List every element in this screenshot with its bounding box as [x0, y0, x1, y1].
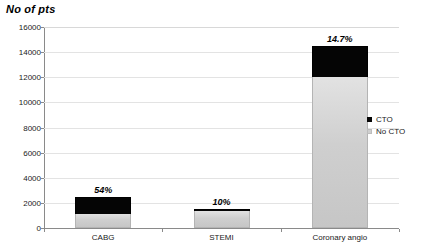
bar-group[interactable]: 10%: [194, 209, 250, 228]
y-tick-label: 12000: [19, 73, 41, 82]
bar-segment-no-cto[interactable]: [194, 211, 250, 228]
bar-segment-no-cto[interactable]: [75, 214, 131, 228]
bar-segment-cto[interactable]: [312, 46, 368, 77]
x-tick-label: CABG: [92, 233, 115, 242]
x-tick-mark: [44, 229, 45, 232]
bar-segment-cto[interactable]: [75, 197, 131, 214]
gridline: [44, 228, 399, 229]
x-tick-label: Coronary angio: [312, 233, 367, 242]
legend-item[interactable]: CTO: [367, 114, 419, 125]
x-tick-mark: [399, 229, 400, 232]
x-tick-mark: [281, 229, 282, 232]
plot-area: 54%10%14.7%: [44, 27, 399, 228]
legend-item[interactable]: No CTO: [367, 126, 419, 137]
chart-legend: CTONo CTO: [367, 114, 419, 138]
gridline: [44, 27, 399, 28]
y-tick-label: 14000: [19, 48, 41, 57]
y-tick-label: 16000: [19, 23, 41, 32]
legend-item-label: No CTO: [376, 127, 405, 136]
bar-percent-label: 54%: [94, 185, 112, 195]
x-tick-mark: [162, 229, 163, 232]
bar-segment-no-cto[interactable]: [312, 77, 368, 228]
y-tick-label: 10000: [19, 98, 41, 107]
y-tick-label: 2000: [23, 198, 41, 207]
bar-percent-label: 14.7%: [327, 34, 353, 44]
y-tick-label: 4000: [23, 173, 41, 182]
x-tick-label: STEMI: [209, 233, 233, 242]
gray-square-icon: [367, 129, 372, 134]
bar-segment-cto[interactable]: [194, 209, 250, 211]
legend-item-label: CTO: [376, 115, 393, 124]
y-axis: 0200040006000800010000120001400016000: [0, 0, 41, 251]
bar-percent-label: 10%: [212, 197, 230, 207]
bar-group[interactable]: 54%: [75, 197, 131, 228]
bar-group[interactable]: 14.7%: [312, 46, 368, 228]
black-square-icon: [367, 117, 372, 122]
chart-container: No of pts 020004000600080001000012000140…: [0, 0, 422, 251]
y-tick-label: 6000: [23, 148, 41, 157]
y-tick-label: 8000: [23, 123, 41, 132]
